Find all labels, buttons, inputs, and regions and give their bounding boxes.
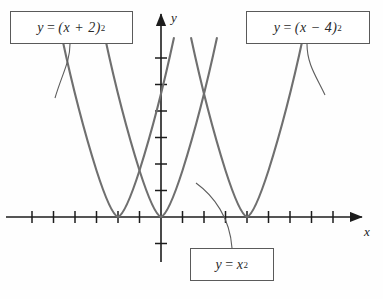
curve-x-minus-4-squared <box>191 38 303 217</box>
leader-line-right <box>307 44 325 95</box>
callout-right-operator: = <box>280 20 294 36</box>
callout-left-operator: = <box>44 20 58 36</box>
callout-left-lhs: y <box>37 20 44 36</box>
callout-right-lhs: y <box>274 20 281 36</box>
y-axis-group <box>155 14 167 262</box>
callout-left-rhs: (x + 2) <box>58 20 101 36</box>
x-axis-group <box>6 211 362 223</box>
callout-right-rhs: (x − 4) <box>295 20 338 36</box>
y-axis-label: y <box>169 10 177 25</box>
callout-bottom-equation[interactable]: y = x 2 <box>190 248 274 281</box>
callout-bottom-operator: = <box>222 257 236 273</box>
leader-line-left <box>55 44 70 98</box>
callout-left-equation[interactable]: y = (x + 2) 2 <box>10 11 133 44</box>
x-axis-label: x <box>363 224 370 239</box>
callout-right-equation[interactable]: y = (x − 4) 2 <box>246 11 370 44</box>
callout-bottom-rhs: x <box>237 257 244 273</box>
leader-line-bottom <box>196 183 232 248</box>
parabola-figure: y x y = (x + 2) 2 y = (x − 4) 2 y = x 2 <box>0 0 383 299</box>
callout-bottom-lhs: y <box>216 257 223 273</box>
parabola-curves <box>62 38 303 217</box>
